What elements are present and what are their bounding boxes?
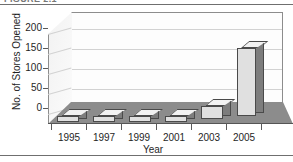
x-tick-mark bbox=[191, 123, 192, 130]
chart-left-wall-edge bbox=[48, 34, 49, 124]
y-tick-label: 100 bbox=[16, 63, 42, 73]
bar-2003[interactable] bbox=[201, 6, 223, 119]
clipped-caption-text: FIGURE 2.1 bbox=[4, 0, 124, 2]
bar-front-face bbox=[201, 106, 223, 119]
chart-figure: No. of Stores Opened 200 150 100 50 0 bbox=[0, 6, 293, 154]
x-axis-title: Year bbox=[48, 144, 258, 155]
y-tick-label: 50 bbox=[16, 83, 42, 93]
bar-side-face bbox=[255, 43, 264, 113]
bar-front-face bbox=[57, 116, 79, 122]
x-tick-mark bbox=[51, 123, 52, 130]
x-tick-mark bbox=[261, 123, 262, 130]
y-tick-label: 200 bbox=[16, 23, 42, 33]
bottom-divider-rule bbox=[0, 155, 293, 156]
bar-front-face bbox=[237, 48, 256, 116]
bar-2001[interactable] bbox=[165, 6, 187, 122]
y-axis-tick-labels: 200 150 100 50 0 bbox=[14, 6, 42, 154]
x-tick-mark bbox=[156, 123, 157, 130]
y-tick-label: 150 bbox=[16, 43, 42, 53]
x-tick-label: 2001 bbox=[154, 132, 194, 143]
x-tick-label: 1999 bbox=[119, 132, 159, 143]
plot-area-3d bbox=[48, 6, 293, 126]
bar-front-face bbox=[93, 116, 115, 122]
x-tick-mark bbox=[121, 123, 122, 130]
x-tick-mark bbox=[86, 123, 87, 130]
y-tick-label: 0 bbox=[16, 103, 42, 113]
x-tick-mark bbox=[226, 123, 227, 130]
bar-2005[interactable] bbox=[237, 6, 256, 116]
bar-1999[interactable] bbox=[129, 6, 151, 122]
bar-front-face bbox=[165, 116, 187, 122]
x-tick-label: 1997 bbox=[84, 132, 124, 143]
bar-front-face bbox=[129, 116, 151, 122]
top-divider-rule bbox=[0, 4, 293, 5]
x-tick-label: 2005 bbox=[224, 132, 264, 143]
x-tick-label: 1995 bbox=[49, 132, 89, 143]
x-tick-label: 2003 bbox=[189, 132, 229, 143]
bar-1997[interactable] bbox=[93, 6, 115, 122]
bar-1995[interactable] bbox=[57, 6, 79, 122]
